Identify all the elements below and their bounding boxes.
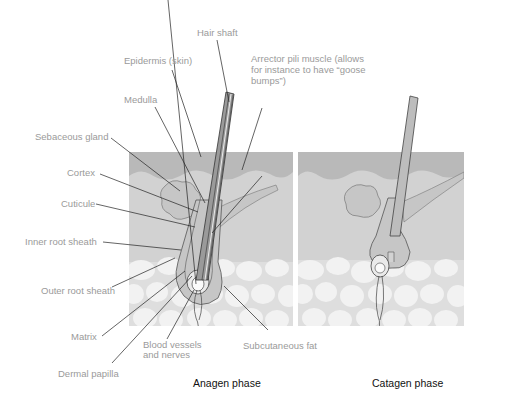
catagen-panel: [293, 152, 469, 334]
label-medulla: Medulla: [124, 94, 157, 105]
label-arrector-pili: Arrector pili muscle (allows for instanc…: [251, 53, 376, 86]
caption-catagen-phase: Catagen phase: [372, 377, 443, 389]
label-hair-shaft: Hair shaft: [197, 27, 238, 38]
label-dermal-papilla: Dermal papilla: [58, 368, 119, 379]
caption-anagen-phase: Anagen phase: [193, 377, 261, 389]
label-subcutaneous-fat: Subcutaneous fat: [243, 340, 317, 351]
label-matrix: Matrix: [71, 331, 97, 342]
label-sebaceous-gland: Sebaceous gland: [35, 131, 108, 142]
label-epidermis: Epidermis (skin): [124, 55, 192, 66]
label-inner-root-sheath: Inner root sheath: [25, 236, 97, 247]
label-outer-root-sheath: Outer root sheath: [41, 285, 115, 296]
label-cortex: Cortex: [67, 167, 95, 178]
label-cuticule: Cuticule: [61, 198, 95, 209]
label-blood-vessels: Blood vessels and nerves: [143, 340, 203, 360]
